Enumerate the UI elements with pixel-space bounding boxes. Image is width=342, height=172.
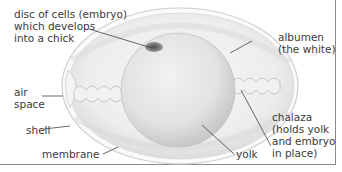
label-air-space-line-2: space xyxy=(14,98,45,110)
label-embryo-line-1: disc of cells (embryo) xyxy=(14,8,127,20)
label-air-space: air space xyxy=(14,86,45,110)
label-embryo-line-3: into a chick xyxy=(14,32,127,44)
label-chalaza: chalaza (holds yolk and embryo in place) xyxy=(272,111,335,159)
label-shell: shell xyxy=(26,124,50,136)
label-albumen-line-1: albumen xyxy=(278,31,336,43)
label-membrane: membrane xyxy=(42,148,99,160)
label-air-space-line-1: air xyxy=(14,86,45,98)
label-embryo-line-2: which develops xyxy=(14,20,127,32)
label-embryo: disc of cells (embryo) which develops in… xyxy=(14,8,127,44)
label-shell-line-1: shell xyxy=(26,124,50,136)
label-albumen: albumen (the white) xyxy=(278,31,336,55)
label-yolk: yolk xyxy=(236,148,258,160)
label-chalaza-line-4: in place) xyxy=(272,147,335,159)
label-chalaza-line-2: (holds yolk xyxy=(272,123,335,135)
yolk xyxy=(121,33,235,147)
label-albumen-line-2: (the white) xyxy=(278,43,336,55)
label-yolk-line-1: yolk xyxy=(236,148,258,160)
label-membrane-line-1: membrane xyxy=(42,148,99,160)
label-chalaza-line-1: chalaza xyxy=(272,111,335,123)
label-chalaza-line-3: and embryo xyxy=(272,135,335,147)
